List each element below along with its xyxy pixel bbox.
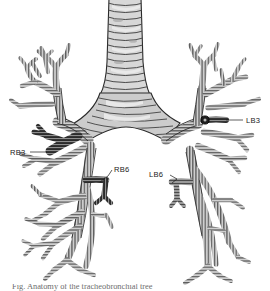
label-rb3-text: RB3: [10, 148, 25, 157]
segment-LB6: [171, 182, 190, 207]
trachea: [100, 0, 151, 95]
figure-root: RB3 LB3 RB6 LB6 Fig. Anatomy of the trac…: [0, 0, 270, 291]
label-rb6-text: RB6: [114, 165, 129, 174]
right-bronchial-tree: [11, 45, 112, 279]
left-bronchial-tree: [166, 44, 259, 283]
figure-caption-text: Fig. Anatomy of the tracheobronchial tre…: [12, 284, 270, 291]
label-lb3-text: LB3: [246, 116, 260, 125]
label-lb6-text: LB6: [149, 170, 163, 179]
figure-caption-strip: Fig. Anatomy of the tracheobronchial tre…: [0, 284, 270, 291]
segment-LB3: [201, 116, 226, 124]
label-lb3: LB3: [226, 116, 260, 125]
tracheobronchial-tree-illustration: RB3 LB3 RB6 LB6: [0, 0, 270, 291]
